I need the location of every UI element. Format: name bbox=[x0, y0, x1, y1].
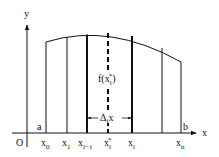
y-axis-label: y bbox=[24, 8, 29, 19]
interval-start-label: a bbox=[37, 121, 42, 132]
tick-label-xi: xi bbox=[128, 137, 135, 151]
origin-label: O bbox=[16, 137, 23, 148]
tick-label-x0: x0 bbox=[41, 137, 50, 151]
tick-label-x1: x1 bbox=[62, 137, 71, 151]
tick-label-xn: xn bbox=[176, 137, 185, 151]
interval-end-label: b bbox=[183, 121, 188, 132]
tick-label-xi-1: xi−1 bbox=[78, 137, 93, 151]
tick-label-xi-star: xi* bbox=[104, 136, 112, 151]
riemann-sum-diagram: Δix f(xi*) y x O a b x0 x1 xi−1 xi* xi x… bbox=[0, 0, 219, 157]
function-curve bbox=[46, 35, 181, 62]
x-axis-label: x bbox=[202, 127, 207, 138]
